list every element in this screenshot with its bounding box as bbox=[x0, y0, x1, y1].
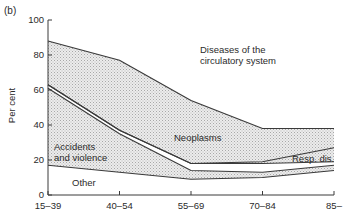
x-tick-label: 40–54 bbox=[105, 200, 135, 211]
y-tick-label: 60 bbox=[33, 84, 44, 95]
y-tick-label: 80 bbox=[33, 49, 44, 60]
y-tick-label: 20 bbox=[33, 154, 44, 165]
y-tick-label: 0 bbox=[39, 189, 44, 200]
x-tick-label: 15–39 bbox=[33, 200, 63, 211]
panel-label: (b) bbox=[4, 5, 16, 16]
x-tick-label: 85– bbox=[319, 200, 349, 211]
y-tick-label: 100 bbox=[28, 14, 44, 25]
stacked-area-chart bbox=[0, 0, 349, 218]
label-circulatory-line2: circulatory system bbox=[200, 55, 276, 66]
x-tick-label: 70–84 bbox=[248, 200, 278, 211]
label-circulatory-line1: Diseases of the bbox=[200, 44, 276, 55]
label-accidents-line1: Accidents bbox=[54, 141, 107, 152]
label-circulatory: Diseases of the circulatory system bbox=[200, 44, 276, 66]
x-tick-label: 55–69 bbox=[176, 200, 206, 211]
label-accidents: Accidents and violence bbox=[54, 141, 107, 163]
label-neoplasms: Neoplasms bbox=[174, 132, 222, 143]
y-tick-label: 40 bbox=[33, 119, 44, 130]
label-resp-dis: Resp. dis. bbox=[292, 153, 334, 164]
y-axis-label: Per cent bbox=[6, 88, 17, 123]
label-other: Other bbox=[72, 177, 96, 188]
label-accidents-line2: and violence bbox=[54, 152, 107, 163]
